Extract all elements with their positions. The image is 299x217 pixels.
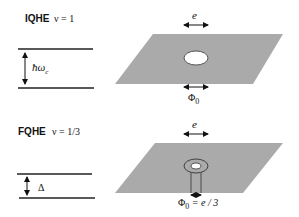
iqhe-quasihole [184, 51, 208, 65]
fqhe-flux-label: Φ0 = e / 3 [178, 197, 218, 211]
fqhe-gap-label: Δ [38, 182, 45, 193]
iqhe-title: IQHE [25, 13, 50, 24]
fqhe-panel: FQHE ν = 1/3 Δ e Φ0 = e / 3 [17, 118, 283, 211]
iqhe-flux-label: Φ0 [188, 92, 199, 106]
fqhe-title: FQHE [18, 126, 46, 137]
quantum-hall-diagram: IQHE ν = 1 ħωc e Φ0 FQHE ν = 1/3 Δ [0, 0, 299, 217]
fqhe-filling-factor: ν = 1/3 [52, 126, 80, 137]
iqhe-charge-label: e [192, 9, 197, 21]
iqhe-filling-factor: ν = 1 [54, 13, 74, 24]
iqhe-panel: IQHE ν = 1 ħωc e Φ0 [18, 9, 283, 106]
fqhe-charge-label: e [192, 118, 197, 130]
fqhe-quasihole-core [191, 163, 201, 169]
iqhe-gap-label: ħωc [32, 61, 49, 76]
